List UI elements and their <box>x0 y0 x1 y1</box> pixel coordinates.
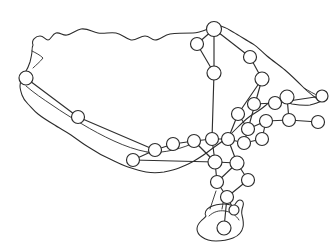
network-node[interactable] <box>244 51 257 64</box>
network-node[interactable] <box>206 133 219 146</box>
network-node[interactable] <box>312 116 325 129</box>
network-node[interactable] <box>127 154 140 167</box>
network-node[interactable] <box>230 156 244 170</box>
network-node[interactable] <box>248 98 261 111</box>
network-node[interactable] <box>149 144 162 157</box>
network-node[interactable] <box>207 66 221 80</box>
network-node[interactable] <box>242 174 255 187</box>
network-node[interactable] <box>280 90 294 104</box>
network-node[interactable] <box>167 138 180 151</box>
network-node[interactable] <box>191 38 204 51</box>
network-node[interactable] <box>242 123 255 136</box>
network-node[interactable] <box>256 133 269 146</box>
network-node[interactable] <box>19 71 33 85</box>
network-node[interactable] <box>221 191 234 204</box>
network-node[interactable] <box>211 176 224 189</box>
network-map-figure <box>0 0 330 252</box>
network-node[interactable] <box>260 115 273 128</box>
network-node[interactable] <box>232 108 245 121</box>
network-node[interactable] <box>207 22 222 37</box>
network-node[interactable] <box>208 155 222 169</box>
network-node[interactable] <box>222 133 235 146</box>
network-node[interactable] <box>217 221 231 235</box>
network-node[interactable] <box>316 90 328 102</box>
network-node[interactable] <box>72 111 85 124</box>
network-node[interactable] <box>255 72 269 86</box>
network-node[interactable] <box>188 135 201 148</box>
network-node[interactable] <box>283 114 296 127</box>
network-node[interactable] <box>229 205 239 215</box>
network-node[interactable] <box>269 97 282 110</box>
network-node[interactable] <box>238 137 251 150</box>
map-canvas <box>0 0 330 252</box>
